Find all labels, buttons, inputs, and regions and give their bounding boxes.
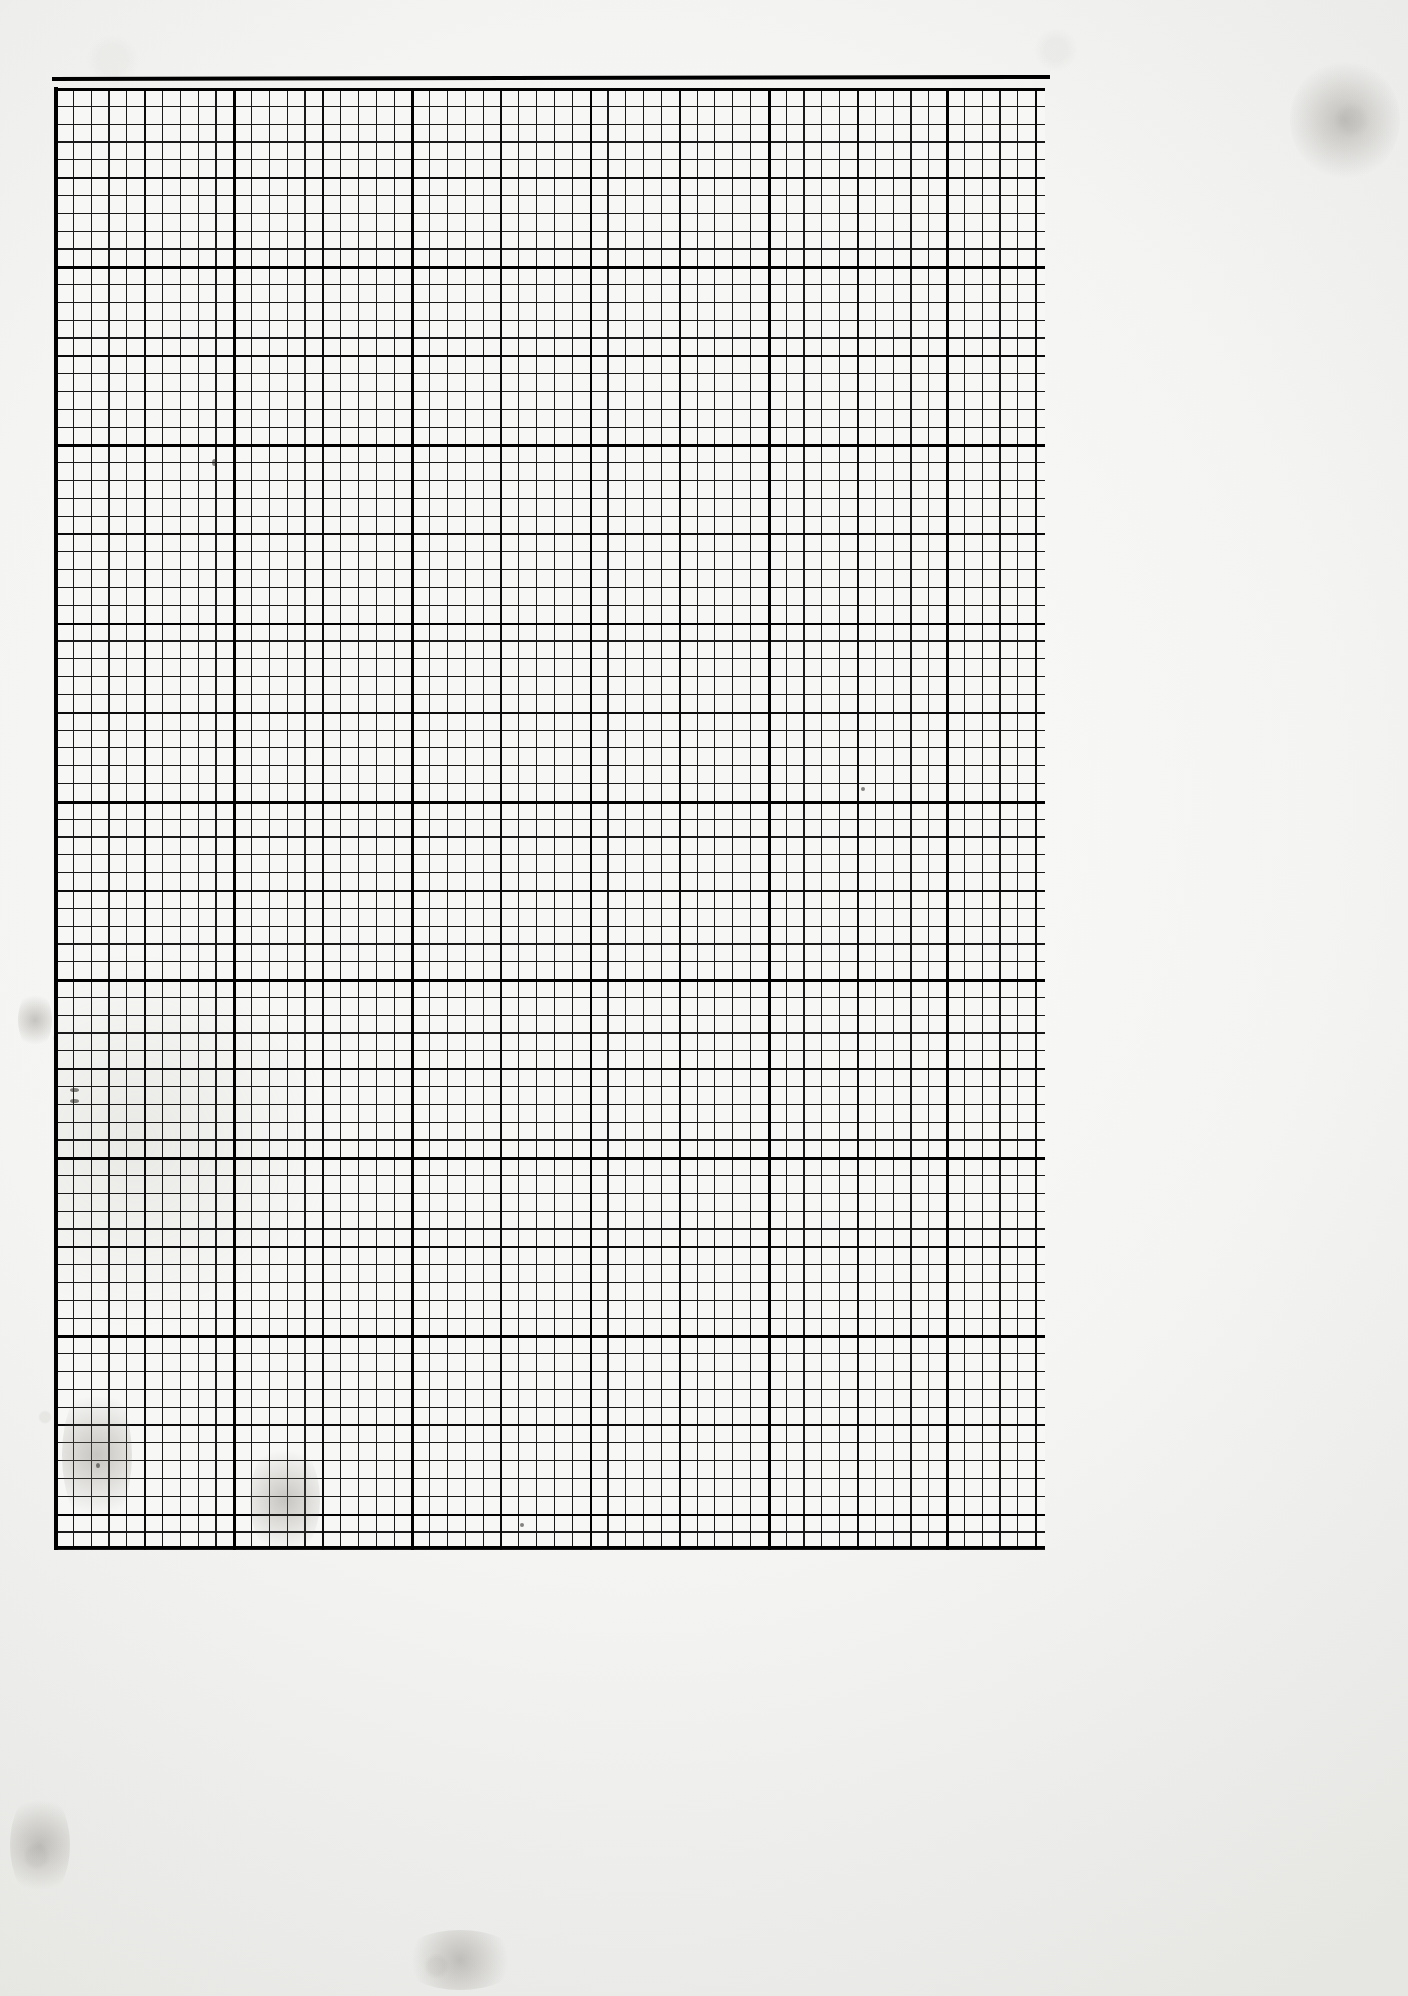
grid-heavy-lines (55, 88, 1045, 1550)
scanned-page (0, 0, 1408, 1996)
mark-bottom-mid (520, 1523, 524, 1527)
mark-lower-left (96, 1463, 100, 1468)
smudge-grid-pencil-arc (250, 1440, 320, 1560)
smudge-top-right (1290, 60, 1400, 180)
grid-medium-lines (55, 88, 1045, 1550)
smudge-bottom-center (400, 1930, 520, 1990)
bottom-border-rule (55, 1546, 1045, 1549)
smudge-grid-left-low (62, 1380, 132, 1530)
smudge-left-margin-mid (18, 990, 52, 1050)
mark-left-edge-lower (70, 1099, 79, 1103)
mark-mid-right (861, 787, 865, 791)
grid-ink-mottle (55, 88, 1045, 1550)
smudge-left-margin-low (10, 1790, 70, 1900)
left-border-rule (54, 87, 58, 1550)
grid-fine-lines (55, 88, 1045, 1550)
mark-upper-left (212, 459, 217, 466)
graph-grid (55, 88, 1045, 1550)
mark-left-edge-upper (70, 1088, 79, 1092)
